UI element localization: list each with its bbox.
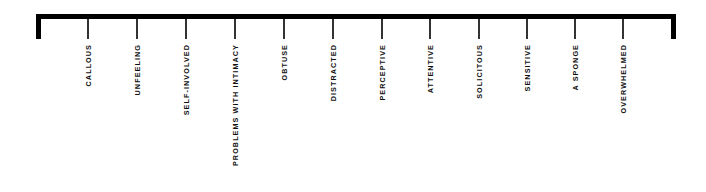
tick-label-text: SOLICITOUS <box>476 44 484 99</box>
scale-right-end <box>671 14 676 39</box>
tick-mark <box>136 19 138 39</box>
tick-mark <box>185 19 187 39</box>
tick-label-text: UNFEELING <box>134 44 142 95</box>
tick-mark <box>478 19 480 39</box>
tick-mark <box>332 19 334 39</box>
tick-mark <box>87 19 89 39</box>
tick-label-text: CALLOUS <box>85 44 93 86</box>
tick-mark <box>622 19 624 39</box>
tick-mark <box>574 19 576 39</box>
tick-label-text: PROBLEMS WITH INTIMACY <box>232 44 240 166</box>
scale-bar <box>36 14 676 19</box>
tick-mark <box>234 19 236 39</box>
tick-label-text: PERCEPTIVE <box>379 44 387 101</box>
tick-label-text: OVERWHELMED <box>620 44 628 113</box>
tick-mark <box>283 19 285 39</box>
scale-left-end <box>36 14 41 39</box>
tick-label-text: A SPONGE <box>572 44 580 90</box>
tick-label-text: SENSITIVE <box>524 44 532 91</box>
tick-label-text: DISTRACTED <box>330 44 338 101</box>
tick-label-text: OBTUSE <box>281 44 289 81</box>
tick-label-text: ATTENTIVE <box>427 44 435 93</box>
tick-mark <box>429 19 431 39</box>
tick-mark <box>381 19 383 39</box>
empathy-spectrum: CALLOUSUNFEELINGSELF-INVOLVEDPROBLEMS WI… <box>0 0 706 192</box>
tick-mark <box>526 19 528 39</box>
tick-label-text: SELF-INVOLVED <box>183 44 191 115</box>
